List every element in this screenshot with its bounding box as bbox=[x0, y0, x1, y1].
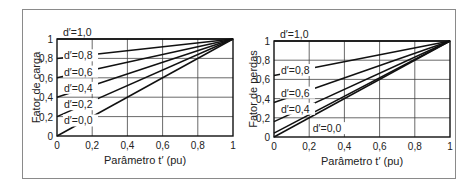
x-tick-label: 1 bbox=[230, 140, 236, 151]
series-label: d′=1,0 bbox=[63, 26, 92, 38]
y-tick-label: 1 bbox=[264, 36, 270, 47]
x-tick-label: 0,4 bbox=[120, 140, 134, 151]
series-label: d′=1,0 bbox=[280, 28, 309, 40]
x-tick-label: 0,4 bbox=[337, 141, 351, 152]
x-tick-label: 0,6 bbox=[156, 140, 170, 151]
chart-panel-load-factor: 00,20,40,60,8100,20,40,60,81Parâmetro t′… bbox=[30, 26, 236, 166]
y-axis-label: Fator de perdas bbox=[247, 50, 259, 128]
x-tick-label: 0 bbox=[54, 140, 60, 151]
series-label: d′=0,8 bbox=[281, 64, 310, 76]
series-label: d′=0,2 bbox=[64, 98, 93, 110]
y-tick-label: 1 bbox=[47, 34, 53, 45]
x-tick-label: 0,8 bbox=[191, 140, 205, 151]
series-label: d′=0,6 bbox=[281, 87, 310, 99]
x-tick-label: 0,8 bbox=[408, 141, 422, 152]
x-tick-label: 1 bbox=[447, 141, 453, 152]
x-tick-label: 0,2 bbox=[85, 140, 99, 151]
x-axis-label: Parâmetro t′ (pu) bbox=[321, 155, 403, 167]
figure-svg: 00,20,40,60,8100,20,40,60,81Parâmetro t′… bbox=[0, 0, 475, 189]
series-label: d′=0,0 bbox=[313, 122, 342, 134]
y-tick-label: 0 bbox=[264, 132, 270, 143]
x-tick-label: 0,6 bbox=[373, 141, 387, 152]
series-label: d′=0,6 bbox=[64, 66, 93, 78]
y-tick-label: 0 bbox=[47, 131, 53, 142]
x-tick-label: 0 bbox=[271, 141, 277, 152]
series-label: d′=0,0 bbox=[64, 114, 93, 126]
chart-panel-loss-factor: 00,20,40,60,8100,20,40,60,81Parâmetro t′… bbox=[247, 28, 453, 167]
series-label: d′=0,4 bbox=[281, 103, 310, 115]
x-tick-label: 0,2 bbox=[302, 141, 316, 152]
x-axis-label: Parâmetro t′ (pu) bbox=[104, 154, 186, 166]
y-axis-label: Fator de carga bbox=[30, 51, 42, 123]
series-label: d′=0,8 bbox=[64, 49, 93, 61]
series-label: d′=0,4 bbox=[64, 82, 93, 94]
